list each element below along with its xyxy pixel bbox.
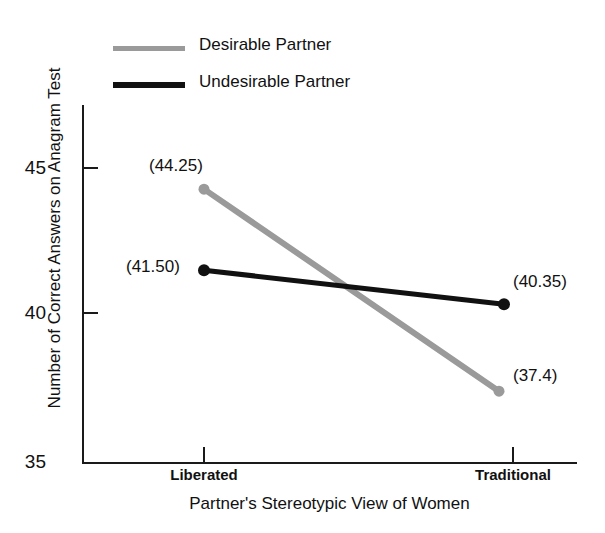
data-point-desirable-liberated <box>199 184 210 195</box>
data-point-desirable-traditional <box>494 386 505 397</box>
data-label-desirable-liberated: (44.25) <box>149 156 203 176</box>
data-point-undesirable-liberated <box>198 264 210 276</box>
data-label-undesirable-traditional: (40.35) <box>513 272 567 292</box>
series-lines <box>0 0 605 533</box>
line-desirable-partner <box>204 189 499 391</box>
data-label-desirable-traditional: (37.4) <box>513 366 557 386</box>
data-label-undesirable-liberated: (41.50) <box>126 257 180 277</box>
anagram-test-line-chart: 45 40 35 Liberated Traditional Number of… <box>0 0 605 533</box>
data-point-undesirable-traditional <box>498 298 510 310</box>
plot-area: (44.25) (37.4) (41.50) (40.35) <box>0 0 605 533</box>
line-undesirable-partner <box>204 270 504 304</box>
